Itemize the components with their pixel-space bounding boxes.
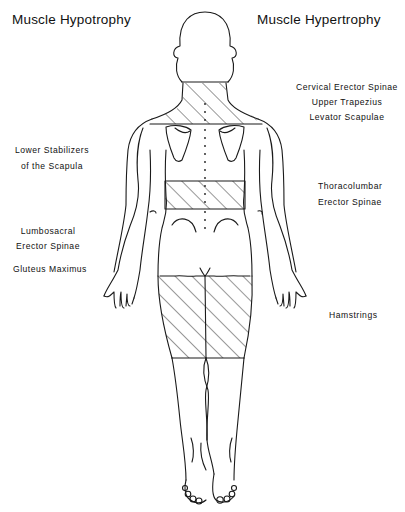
posterior-body-figure: [0, 0, 405, 512]
hatched-region-neck-upper-trapezius: [150, 80, 260, 126]
hatched-region-thoracolumbar: [165, 181, 245, 209]
scapulae: [166, 126, 244, 162]
feet: [183, 474, 237, 504]
hatched-region-hamstrings: [150, 270, 260, 365]
head: [174, 12, 237, 82]
gluteal-cleft: [200, 268, 210, 276]
left-elbow-mark: [150, 211, 156, 213]
lower-legs: [172, 358, 244, 480]
